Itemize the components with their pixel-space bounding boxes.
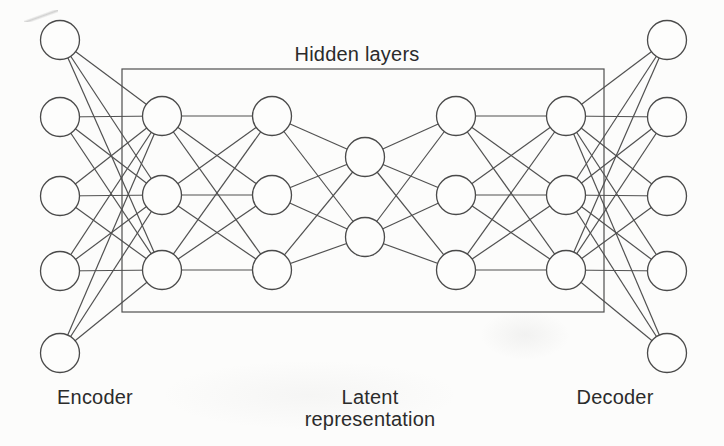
node-hidden-4-1 bbox=[547, 176, 586, 215]
node-decoder-output-0 bbox=[648, 21, 687, 60]
network-graph bbox=[0, 0, 724, 446]
node-hidden-1-2 bbox=[143, 251, 182, 290]
node-decoder-output-1 bbox=[648, 98, 687, 137]
node-encoder-input-2 bbox=[41, 177, 80, 216]
node-decoder-output-4 bbox=[648, 334, 687, 373]
edge-latent-1-to-hidden-3-0 bbox=[365, 116, 456, 237]
nodes-group bbox=[41, 21, 687, 373]
node-encoder-input-0 bbox=[41, 21, 80, 60]
hidden-layers-label: Hidden layers bbox=[295, 43, 420, 65]
node-encoder-input-1 bbox=[41, 98, 80, 137]
latent-label-line1: Latent bbox=[305, 386, 436, 408]
node-hidden-1-0 bbox=[143, 97, 182, 136]
node-hidden-2-0 bbox=[253, 97, 292, 136]
latent-representation-label: Latent representation bbox=[305, 386, 436, 430]
node-hidden-3-2 bbox=[437, 251, 476, 290]
node-hidden-3-0 bbox=[437, 97, 476, 136]
node-hidden-3-1 bbox=[437, 176, 476, 215]
node-hidden-4-0 bbox=[547, 97, 586, 136]
hidden-layers-box bbox=[122, 69, 604, 312]
node-encoder-input-4 bbox=[41, 334, 80, 373]
latent-label-line2: representation bbox=[305, 408, 436, 430]
encoder-label: Encoder bbox=[57, 386, 133, 408]
decoder-label: Decoder bbox=[577, 386, 654, 408]
node-decoder-output-2 bbox=[648, 177, 687, 216]
node-latent-0 bbox=[346, 138, 385, 177]
node-decoder-output-3 bbox=[648, 252, 687, 291]
node-hidden-1-1 bbox=[143, 176, 182, 215]
node-hidden-4-2 bbox=[547, 251, 586, 290]
node-hidden-2-1 bbox=[253, 176, 292, 215]
node-encoder-input-3 bbox=[41, 252, 80, 291]
node-latent-1 bbox=[346, 218, 385, 257]
autoencoder-diagram: Hidden layers Encoder Latent representat… bbox=[0, 0, 724, 446]
node-hidden-2-2 bbox=[253, 251, 292, 290]
